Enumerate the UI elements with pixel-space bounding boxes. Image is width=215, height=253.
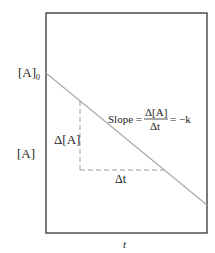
delta-t-label: Δt: [115, 172, 127, 186]
y-axis-label: [A]: [17, 146, 35, 161]
y-initial-label: [A]0: [18, 65, 40, 82]
x-axis-label: t: [123, 238, 127, 250]
delta-a-label: Δ[A]: [54, 132, 80, 147]
chart-figure: [A]0 [A] Δ[A] Δt Slope = Δ[A] Δt = −k t: [0, 0, 215, 253]
slope-denominator: Δt: [150, 120, 160, 132]
slope-numerator: Δ[A]: [145, 106, 167, 118]
slope-prefix: Slope =: [108, 113, 142, 125]
slope-equation: Slope = Δ[A] Δt = −k: [108, 106, 191, 132]
slope-suffix: = −k: [170, 113, 191, 125]
